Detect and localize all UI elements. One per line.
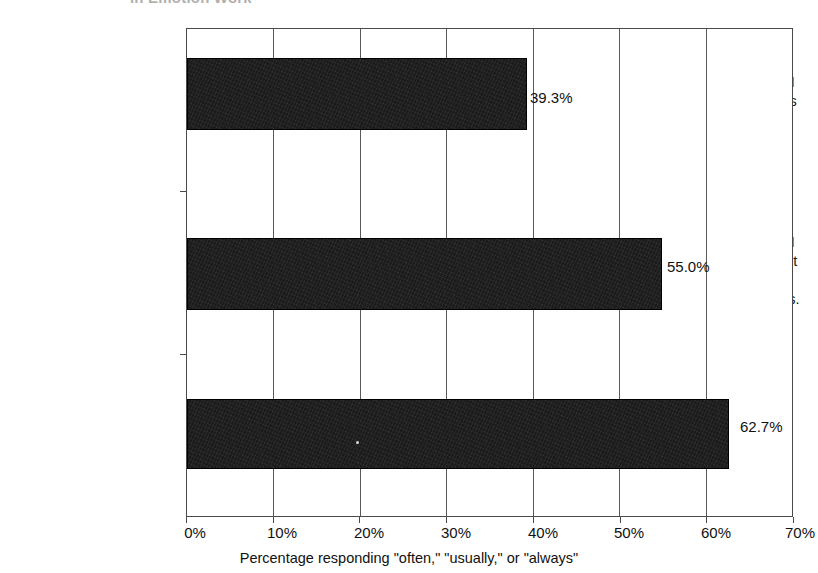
x-tick-label-10: 10% [267, 524, 297, 541]
x-tick-10 [273, 517, 274, 523]
x-tick-label-60: 60% [701, 524, 731, 541]
x-tick-label-70: 70% [785, 524, 815, 541]
x-tick-70 [793, 517, 794, 523]
bar-3-speck [356, 441, 359, 444]
bar-value-2: 55.0% [667, 258, 710, 275]
x-tick-40 [533, 517, 534, 523]
x-axis-title: Percentage responding "often," "usually,… [0, 550, 818, 566]
chart-title: in Emotion Work [130, 0, 550, 6]
x-tick-20 [359, 517, 360, 523]
x-tick-60 [706, 517, 707, 523]
bar-2 [187, 238, 662, 310]
x-tick-0 [186, 517, 187, 523]
bar-chart: in Emotion Work My job requires that I m… [0, 0, 818, 573]
x-tick-label-40: 40% [528, 524, 558, 541]
bar-1 [187, 58, 527, 130]
bar-3 [187, 399, 729, 469]
x-tick-50 [620, 517, 621, 523]
x-tick-label-30: 30% [441, 524, 471, 541]
bar-value-3: 62.7% [740, 418, 783, 435]
x-tick-label-20: 20% [354, 524, 384, 541]
x-tick-30 [446, 517, 447, 523]
x-tick-label-50: 50% [614, 524, 644, 541]
bar-value-1: 39.3% [530, 89, 573, 106]
x-tick-label-0: 0% [184, 524, 206, 541]
